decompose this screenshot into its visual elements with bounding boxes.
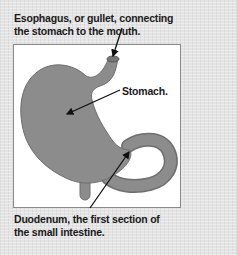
esophagus-label: Esophagus, or gullet, connecting the sto… [14,12,174,38]
stomach-label: Stomach. [122,85,168,98]
duodenum-label: Duodenum, the first section of the small… [14,213,174,239]
stomach-shape [21,58,131,183]
diagram-canvas: Esophagus, or gullet, connecting the sto… [0,0,237,255]
